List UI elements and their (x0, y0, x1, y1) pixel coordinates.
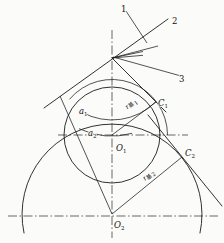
label-a1: a1 (79, 106, 88, 117)
tangent-line-2 (44, 19, 168, 108)
line-1 (126, 11, 147, 43)
geometry-canvas: 1 2 3 a1 a2 O1 O2 C1 C2 r基1 r基2 (0, 0, 224, 243)
label-a2: a2 (88, 128, 97, 139)
label-C1: C1 (158, 98, 168, 109)
label-line-2: 2 (172, 16, 177, 26)
radius-O2-C2 (112, 157, 182, 214)
label-line-1: 1 (121, 4, 126, 14)
construction-figure: 1 2 3 a1 a2 O1 O2 C1 C2 r基1 r基2 (0, 0, 224, 243)
label-C2: C2 (185, 148, 195, 159)
label-r2: r基2 (141, 168, 157, 183)
line-3 (113, 57, 181, 76)
label-line-3: 3 (179, 74, 184, 84)
label-O1: O1 (116, 143, 126, 154)
label-O2: O2 (114, 220, 124, 231)
tangent-line-C2 (148, 115, 222, 206)
label-r1: r基1 (124, 97, 140, 112)
